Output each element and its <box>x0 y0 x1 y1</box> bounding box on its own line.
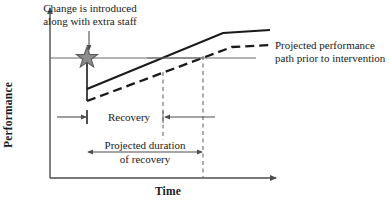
chart-canvas <box>0 0 390 211</box>
actual-performance-line <box>87 30 270 89</box>
projected-path-dashed <box>87 45 272 101</box>
y-axis-title: Performance <box>0 76 16 154</box>
projected-duration-label-line2: of recovery <box>120 153 170 166</box>
intervention-note-line1: Change is introduced <box>43 2 136 15</box>
intervention-note-line2: along with extra staff <box>43 15 137 28</box>
y-axis-title-text: Performance <box>2 82 14 148</box>
projected-path-label-line2: path prior to intervention <box>275 52 385 65</box>
projected-duration-label-line1: Projected duration <box>105 139 186 152</box>
performance-recovery-chart: Performance Time Change is introduced al… <box>0 0 390 211</box>
recovery-label: Recovery <box>108 111 150 124</box>
x-axis-title: Time <box>155 185 181 198</box>
projected-path-label-line1: Projected performance <box>275 39 375 52</box>
